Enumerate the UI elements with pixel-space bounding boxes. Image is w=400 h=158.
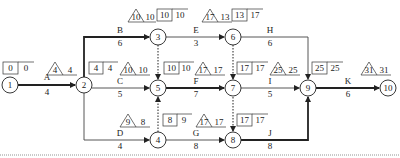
triangle-node-7: 17 17 — [195, 62, 225, 75]
activity-name: F — [193, 76, 198, 86]
node-10: 10 — [380, 80, 396, 96]
latest-time: 10 — [176, 10, 186, 20]
activity-J: J 8 — [241, 97, 308, 151]
activity-name: I — [269, 76, 272, 86]
triangle-side-value: 4 — [68, 65, 73, 75]
time-box-node-5: 10 10 — [164, 62, 194, 74]
activity-name: K — [345, 76, 352, 86]
time-box-node-2: 4 4 — [89, 62, 118, 74]
activity-duration: 6 — [118, 38, 123, 48]
earliest-time: 0 — [8, 63, 13, 73]
activity-duration: 6 — [346, 89, 351, 99]
node-label: 1 — [8, 80, 13, 90]
triangle-side-value: 8 — [141, 117, 146, 127]
node-6: 6 — [225, 29, 241, 45]
latest-time: 0 — [24, 63, 29, 73]
time-box-node-1: 0 0 — [3, 62, 34, 74]
triangle-side-value: 17 — [215, 117, 225, 127]
earliest-time: 8 — [168, 115, 173, 125]
latest-time: 17 — [256, 115, 266, 125]
triangle-side-value: 25 — [289, 65, 299, 75]
activity-C: C 5 — [92, 76, 149, 99]
earliest-time: 10 — [160, 10, 170, 20]
triangle-value: 31 — [365, 65, 374, 75]
earliest-time: 17 — [240, 63, 250, 73]
triangle-value: 17 — [199, 65, 209, 75]
activity-duration: 4 — [45, 87, 50, 97]
triangle-node-6: 17 13 — [202, 9, 232, 22]
activity-G: G 8 — [166, 128, 224, 151]
activity-duration: 5 — [268, 89, 273, 99]
node-label: 9 — [306, 83, 311, 93]
latest-time: 10 — [182, 63, 192, 73]
earliest-time: 17 — [240, 115, 250, 125]
latest-time: 4 — [108, 63, 113, 73]
activity-duration: 7 — [194, 89, 199, 99]
activity-duration: 4 — [118, 141, 123, 151]
node-label: 10 — [384, 83, 394, 93]
activity-duration: 6 — [268, 38, 273, 48]
activity-name: A — [44, 72, 51, 82]
activity-name: H — [267, 25, 274, 35]
node-3: 3 — [150, 29, 166, 45]
network-diagram: A 4 B 6 C 5 D 4 E 3 F 7 G 8 H 6 I 5 — [0, 0, 400, 158]
time-box-node-4: 8 9 — [163, 114, 192, 126]
node-9: 9 — [300, 80, 316, 96]
triangle-value: 10 — [124, 65, 134, 75]
node-5: 5 — [150, 80, 166, 96]
triangle-node-5: 10 10 — [120, 62, 150, 75]
activity-name: E — [193, 25, 199, 35]
triangle-node-4: 9 8 — [120, 114, 150, 127]
node-1: 1 — [2, 77, 18, 93]
triangle-value: 9 — [126, 117, 131, 127]
activity-duration: 8 — [194, 141, 199, 151]
node-label: 6 — [231, 32, 236, 42]
earliest-time: 25 — [315, 63, 325, 73]
node-7: 7 — [225, 80, 241, 96]
time-box-node-3: 10 10 — [157, 9, 188, 21]
triangle-value: 25 — [274, 65, 284, 75]
activity-name: B — [117, 25, 123, 35]
earliest-time: 13 — [235, 10, 245, 20]
node-label: 2 — [82, 80, 87, 90]
earliest-time: 10 — [167, 63, 177, 73]
triangle-side-value: 17 — [214, 65, 224, 75]
node-2: 2 — [76, 77, 92, 93]
triangle-node-8: 17 17 — [196, 114, 226, 127]
node-8: 8 — [225, 132, 241, 148]
triangle-side-value: 31 — [380, 65, 389, 75]
triangle-node-9: 25 25 — [270, 62, 300, 75]
activity-name: C — [117, 76, 123, 86]
triangle-side-value: 10 — [139, 65, 149, 75]
triangle-value: 17 — [200, 117, 210, 127]
triangle-value: 10 — [132, 12, 142, 22]
activity-F: F 7 — [166, 76, 224, 99]
activity-A: A 4 — [18, 72, 75, 97]
earliest-time: 4 — [94, 63, 99, 73]
activity-name: G — [193, 128, 200, 138]
time-box-node-6: 13 17 — [232, 9, 263, 21]
activity-duration: 8 — [268, 141, 273, 151]
triangle-node-2: 4 4 — [47, 62, 77, 75]
node-label: 7 — [231, 83, 236, 93]
triangle-node-10: 31 31 — [361, 62, 391, 75]
activity-duration: 5 — [118, 89, 123, 99]
node-label: 8 — [231, 135, 236, 145]
time-box-node-9: 25 25 — [312, 62, 343, 74]
latest-time: 25 — [331, 63, 341, 73]
latest-time: 17 — [251, 10, 261, 20]
node-label: 5 — [156, 83, 161, 93]
activity-name: D — [117, 128, 124, 138]
node-4: 4 — [150, 132, 166, 148]
time-box-node-7: 17 17 — [237, 62, 268, 74]
activity-E: E 3 — [166, 25, 224, 48]
node-label: 4 — [156, 135, 161, 145]
triangle-node-3: 10 10 — [128, 9, 156, 22]
latest-time: 9 — [182, 115, 187, 125]
triangle-value: 17 — [206, 12, 216, 22]
triangle-value: 4 — [53, 65, 58, 75]
activity-D: D 4 — [84, 93, 149, 151]
activity-K: K 6 — [316, 76, 379, 99]
activity-name: J — [268, 128, 272, 138]
triangle-side-value: 10 — [146, 12, 156, 22]
